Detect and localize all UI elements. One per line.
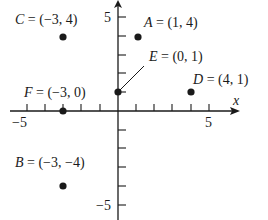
x-tick-label-5: 5 [205, 115, 212, 130]
y-tick-label-5: 5 [104, 10, 111, 25]
y-axis [114, 0, 126, 220]
point-e-leader-line [118, 66, 144, 92]
point-f-label: F = (−3, 0) [23, 85, 86, 101]
point-c-label: C = (−3, 4) [15, 12, 78, 28]
point-a-label: A = (1, 4) [143, 15, 198, 31]
point-d [187, 88, 194, 95]
x-axis-label: x [232, 93, 240, 108]
point-f [59, 107, 66, 114]
x-tick-label-neg5: −5 [12, 115, 27, 130]
point-c [59, 33, 66, 40]
x-axis [10, 104, 240, 115]
point-b-label: B = (−3, −4) [15, 155, 85, 171]
coordinate-plane: x −5 5 5 −5 C = (−3, 4) A = (1, 4) E = (… [0, 0, 268, 220]
point-b [59, 182, 66, 189]
point-a [134, 33, 141, 40]
point-e-label: E = (0, 1) [148, 49, 203, 65]
y-tick-label-neg5: −5 [96, 198, 111, 213]
point-d-label: D = (4, 1) [192, 72, 249, 88]
point-e [114, 88, 121, 95]
